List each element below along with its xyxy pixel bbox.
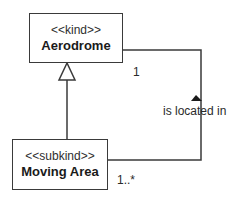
multiplicity-moving-area: 1..* [117,173,135,187]
class-stereotype: <<kind>> [51,23,101,38]
multiplicity-aerodrome: 1 [133,65,140,79]
class-name: Aerodrome [41,38,110,54]
uml-diagram-canvas: <<kind>> Aerodrome <<subkind>> Moving Ar… [0,0,251,201]
class-name: Moving Area [21,164,99,180]
class-stereotype: <<subkind>> [25,149,94,164]
association-name: is located in [163,104,226,118]
class-aerodrome[interactable]: <<kind>> Aerodrome [29,13,123,63]
generalization-arrow-icon [59,63,75,80]
class-moving-area[interactable]: <<subkind>> Moving Area [12,139,108,190]
